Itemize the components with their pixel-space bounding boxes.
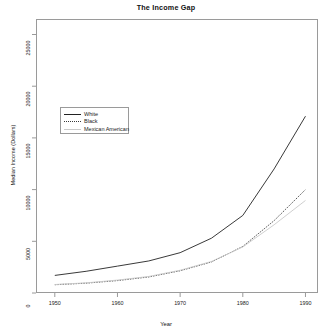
x-axis-tick-label: 1970 (174, 300, 186, 306)
legend-item-white: White (64, 111, 125, 118)
plot-area (36, 19, 318, 293)
y-axis-tick-label: 15000 (25, 137, 31, 165)
legend-label: Black (84, 118, 97, 124)
y-axis-tick-label: 20000 (25, 85, 31, 113)
legend-label: White (84, 111, 98, 117)
y-axis-title: Median Income (Dollars) (10, 100, 16, 210)
y-axis-tick-label: 0 (25, 292, 31, 320)
legend-item-black: Black (64, 118, 125, 125)
x-axis-tick-label: 1960 (111, 300, 123, 306)
x-axis-tick-label: 1980 (237, 300, 249, 306)
legend-line-dotted-icon (64, 118, 81, 125)
chart-title: The Income Gap (0, 3, 332, 12)
x-axis-title: Year (0, 321, 332, 327)
y-axis-tick-label: 5000 (25, 240, 31, 268)
x-axis-tick-label: 1950 (49, 300, 61, 306)
y-axis-tick-label: 25000 (25, 34, 31, 62)
legend-item-mexican-american: Mexican American (64, 125, 125, 132)
legend-label: Mexican American (84, 126, 129, 132)
x-axis-tick-label: 1990 (299, 300, 311, 306)
chart-legend: White Black Mexican American (60, 107, 129, 134)
legend-line-light-icon (64, 125, 81, 132)
legend-line-solid-icon (64, 111, 81, 118)
y-axis-tick-label: 10000 (25, 189, 31, 217)
chart-canvas: The Income Gap 0500010000150002000025000… (0, 0, 332, 336)
